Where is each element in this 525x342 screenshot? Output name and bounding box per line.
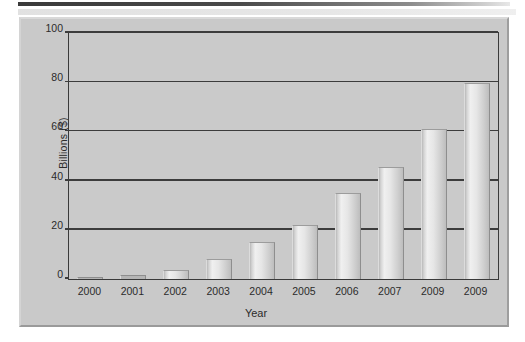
plot-area: 020406080100 — [68, 32, 499, 280]
bar-2003-3 — [206, 259, 232, 279]
chart-figure-body: Billions ($) 020406080100 20002001200220… — [21, 19, 507, 325]
scan-artifact-streak — [18, 2, 510, 6]
x-axis-tick-label: 2000 — [78, 285, 101, 297]
x-axis-tick-label: 2007 — [378, 285, 401, 297]
y-axis-tick-label: 20 — [51, 219, 63, 231]
scan-artifact-streak-soft — [18, 9, 516, 15]
x-axis-tick-label: 2004 — [249, 285, 272, 297]
y-axis-tick-label: 0 — [57, 268, 63, 280]
x-axis-tick-label: 2005 — [292, 285, 315, 297]
bar-2006-6 — [335, 193, 361, 279]
bar-2001-1 — [120, 275, 146, 279]
y-axis-tick-label: 40 — [51, 170, 63, 182]
x-axis-tick-label: 2009 — [464, 285, 487, 297]
x-axis-tick-label: 2002 — [164, 285, 187, 297]
x-axis-title: Year — [21, 307, 491, 319]
y-axis-tick-label: 100 — [45, 22, 63, 34]
bar-2005-5 — [292, 225, 318, 279]
bar-2004-4 — [249, 242, 275, 279]
y-axis-tick-label: 60 — [51, 120, 63, 132]
bar-2000-0 — [77, 277, 103, 279]
bar-2007-7 — [378, 167, 404, 279]
x-axis-tick-label: 2009 — [421, 285, 444, 297]
bars-group — [69, 33, 498, 279]
x-axis-tick-label: 2003 — [206, 285, 229, 297]
bar-2002-2 — [163, 270, 189, 279]
bar-2009-9 — [464, 83, 490, 279]
x-axis-tick-label: 2001 — [121, 285, 144, 297]
chart-figure-frame: Billions ($) 020406080100 20002001200220… — [19, 17, 509, 327]
y-axis-tick-label: 80 — [51, 71, 63, 83]
bar-2009-8 — [421, 129, 447, 279]
x-axis-tick-label: 2006 — [335, 285, 358, 297]
